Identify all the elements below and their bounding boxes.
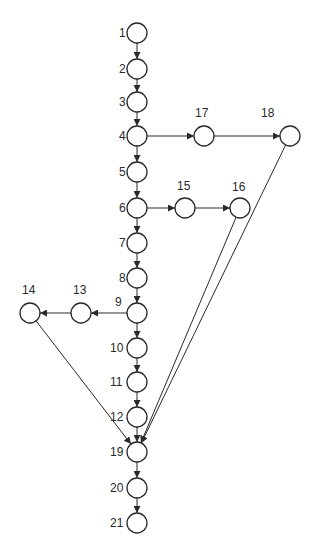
node-circle: [127, 23, 147, 43]
node-10: [127, 338, 147, 358]
node-2: [127, 59, 147, 79]
node-circle: [127, 513, 147, 533]
node-label-16: 16: [232, 180, 246, 194]
node-label-2: 2: [119, 62, 126, 76]
node-circle: [127, 126, 147, 146]
node-circle: [127, 442, 147, 462]
node-label-9: 9: [115, 295, 122, 309]
node-circle: [230, 198, 250, 218]
node-label-5: 5: [119, 165, 126, 179]
node-20: [127, 478, 147, 498]
node-label-3: 3: [119, 95, 126, 109]
node-14: [20, 303, 40, 323]
node-label-11: 11: [110, 375, 123, 389]
node-11: [127, 372, 147, 392]
node-label-20: 20: [110, 481, 124, 495]
node-label-18: 18: [261, 106, 275, 120]
node-circle: [127, 478, 147, 498]
node-label-14: 14: [22, 283, 36, 297]
node-circle: [127, 162, 147, 182]
node-12: [127, 407, 147, 427]
node-circle: [194, 126, 214, 146]
node-16: [230, 198, 250, 218]
edges-layer: [36, 43, 286, 513]
node-19: [127, 442, 147, 462]
node-label-10: 10: [110, 341, 124, 355]
edge-18-to-19: [141, 145, 285, 443]
node-13: [71, 303, 91, 323]
node-6: [127, 198, 147, 218]
node-21: [127, 513, 147, 533]
node-label-4: 4: [119, 129, 126, 143]
node-8: [127, 268, 147, 288]
node-7: [127, 233, 147, 253]
edge-16-to-19: [141, 217, 236, 443]
node-label-1: 1: [119, 26, 126, 40]
node-circle: [127, 338, 147, 358]
node-circle: [280, 126, 300, 146]
node-circle: [127, 268, 147, 288]
node-circle: [127, 407, 147, 427]
node-circle: [127, 198, 147, 218]
node-circle: [20, 303, 40, 323]
node-17: [194, 126, 214, 146]
node-circle: [127, 303, 147, 323]
node-label-19: 19: [110, 445, 124, 459]
node-circle: [71, 303, 91, 323]
node-circle: [175, 198, 195, 218]
node-circle: [127, 372, 147, 392]
node-label-15: 15: [177, 179, 191, 193]
node-label-6: 6: [119, 201, 126, 215]
node-1: [127, 23, 147, 43]
node-label-12: 12: [110, 410, 124, 424]
node-label-17: 17: [195, 106, 209, 120]
node-18: [280, 126, 300, 146]
node-3: [127, 92, 147, 112]
nodes-layer: [20, 23, 300, 533]
node-9: [127, 303, 147, 323]
node-15: [175, 198, 195, 218]
node-label-7: 7: [119, 236, 126, 250]
flow-graph-diagram: 123456789101112131415161718192021: [0, 0, 316, 551]
graph-canvas: 123456789101112131415161718192021: [0, 0, 316, 551]
node-label-8: 8: [119, 271, 126, 285]
node-circle: [127, 233, 147, 253]
node-4: [127, 126, 147, 146]
node-circle: [127, 92, 147, 112]
node-circle: [127, 59, 147, 79]
node-label-13: 13: [73, 283, 87, 297]
labels-layer: 123456789101112131415161718192021: [22, 26, 275, 530]
node-label-21: 21: [110, 516, 124, 530]
node-5: [127, 162, 147, 182]
